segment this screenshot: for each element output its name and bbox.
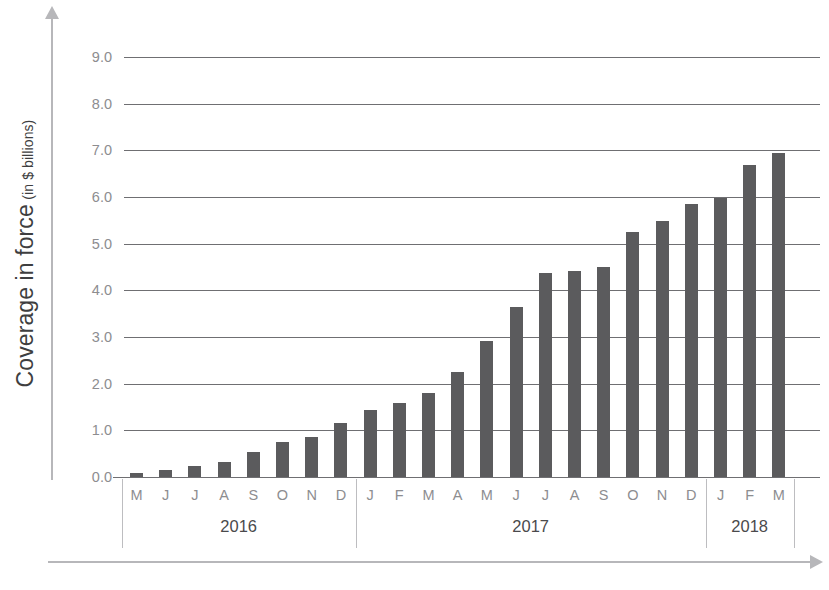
x-axis-month-label: A — [560, 488, 590, 503]
bar — [247, 452, 260, 477]
bar — [597, 267, 610, 477]
x-axis-month-label: O — [268, 488, 298, 503]
x-axis-month-label: J — [501, 488, 531, 503]
y-axis-tick-label: 2.0 — [62, 377, 112, 392]
x-axis-month-label: S — [589, 488, 619, 503]
x-axis-spine — [48, 561, 814, 563]
zero-baseline — [113, 477, 820, 478]
bar — [743, 165, 756, 477]
x-axis-month-label: M — [122, 488, 152, 503]
x-axis-month-label: M — [472, 488, 502, 503]
bar — [539, 273, 552, 477]
bar — [422, 393, 435, 477]
bar — [568, 271, 581, 477]
bar — [685, 204, 698, 477]
bar — [364, 410, 377, 477]
y-axis-tick-label: 5.0 — [62, 237, 112, 252]
x-axis-month-label: O — [618, 488, 648, 503]
x-axis-year-label: 2017 — [471, 518, 591, 535]
y-axis-tick-label: 8.0 — [62, 97, 112, 112]
y-axis-tick-label: 4.0 — [62, 283, 112, 298]
y-axis-title-unit: (in $ billions) — [20, 120, 36, 200]
x-axis-month-label: J — [706, 488, 736, 503]
x-axis-month-label: D — [676, 488, 706, 503]
bar-chart-figure: Coverage in force (in $ billions) 0.01.0… — [0, 0, 829, 590]
x-axis-month-label: A — [443, 488, 473, 503]
x-axis-month-label: M — [764, 488, 794, 503]
bar — [451, 372, 464, 477]
bar — [772, 153, 785, 477]
y-axis-title: Coverage in force (in $ billions) — [0, 0, 44, 520]
bar — [626, 232, 639, 477]
x-axis-year-label: 2016 — [179, 518, 299, 535]
bar — [480, 341, 493, 477]
x-axis-month-label: M — [414, 488, 444, 503]
bar — [714, 198, 727, 477]
x-axis-month-label: J — [151, 488, 181, 503]
y-axis-tick-label: 3.0 — [62, 330, 112, 345]
bar — [188, 466, 201, 477]
year-separator — [794, 479, 795, 548]
bar — [510, 307, 523, 477]
bar — [159, 470, 172, 477]
x-axis-month-label: A — [209, 488, 239, 503]
year-separator — [706, 479, 707, 548]
bar — [393, 403, 406, 477]
year-separator — [356, 479, 357, 548]
y-axis-title-main: Coverage in force — [12, 204, 38, 387]
x-axis-month-label: S — [238, 488, 268, 503]
x-axis-month-label: F — [384, 488, 414, 503]
bar — [656, 221, 669, 477]
x-axis-month-label: N — [647, 488, 677, 503]
y-axis-arrowhead-icon — [45, 6, 59, 19]
bar — [130, 473, 143, 477]
x-axis-month-label: J — [530, 488, 560, 503]
bar — [334, 423, 347, 477]
x-axis-month-label: J — [355, 488, 385, 503]
y-axis-spine — [51, 18, 53, 480]
bar — [218, 462, 231, 477]
x-axis-year-label: 2018 — [690, 518, 810, 535]
y-axis-tick-label: 7.0 — [62, 143, 112, 158]
bar — [305, 437, 318, 477]
y-axis-tick-label: 1.0 — [62, 423, 112, 438]
year-separator — [122, 479, 123, 548]
y-axis-tick-label: 9.0 — [62, 50, 112, 65]
x-axis-month-label: F — [735, 488, 765, 503]
x-axis-month-label: J — [180, 488, 210, 503]
x-axis-month-label: N — [297, 488, 327, 503]
bar-series — [124, 57, 820, 477]
x-axis-arrowhead-icon — [810, 555, 823, 569]
y-axis-tick-label: 0.0 — [62, 470, 112, 485]
x-axis-month-label: D — [326, 488, 356, 503]
y-axis-tick-label: 6.0 — [62, 190, 112, 205]
bar — [276, 442, 289, 477]
